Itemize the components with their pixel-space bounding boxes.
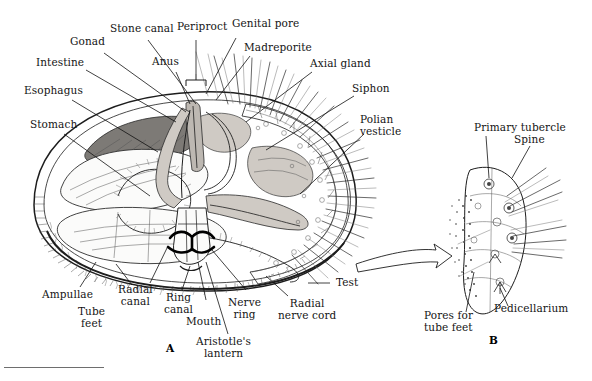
panel-b-drawing <box>449 167 566 314</box>
label-mouth: Mouth <box>186 316 221 328</box>
panel-id-a: A <box>166 342 174 354</box>
label-tube-feet: Tube feet <box>78 306 105 329</box>
panel-id-b: B <box>489 334 498 346</box>
label-polian-vesticle: Polian vesticle <box>360 114 401 137</box>
label-radial-nerve-cord: Radial nerve cord <box>278 298 336 321</box>
stomach-shape <box>61 149 208 211</box>
label-radial-canal: Radial canal <box>118 284 153 307</box>
label-aristotles-lantern: Aristotle's lantern <box>196 336 251 359</box>
figure-canvas: Gonad Stone canal Periproct Genital pore… <box>0 0 592 381</box>
periproct-bracket <box>186 74 206 86</box>
pore-stipple <box>449 195 477 297</box>
label-pedicellarium: Pedicellarium <box>494 303 568 315</box>
label-intestine: Intestine <box>36 57 84 69</box>
label-nerve-ring: Nerve ring <box>228 297 261 320</box>
label-siphon: Siphon <box>352 83 390 95</box>
label-axial-gland: Axial gland <box>310 58 371 70</box>
label-test: Test <box>336 277 358 289</box>
footnote-rule <box>4 367 104 368</box>
label-pores-tube-feet: Pores for tube feet <box>424 310 473 333</box>
label-gonad: Gonad <box>70 36 105 48</box>
label-stone-canal: Stone canal <box>110 23 174 35</box>
label-periproct: Periproct <box>177 21 227 33</box>
label-primary-tubercle: Primary tubercle <box>474 122 566 134</box>
label-esophagus: Esophagus <box>24 85 83 97</box>
label-spine: Spine <box>514 134 545 146</box>
label-anus: Anus <box>152 56 179 68</box>
label-madreporite: Madreporite <box>244 42 312 54</box>
label-ampullae: Ampullae <box>42 289 93 301</box>
panel-connector-arrow <box>356 244 452 272</box>
label-ring-canal: Ring canal <box>164 292 193 315</box>
label-genital-pore: Genital pore <box>232 18 299 30</box>
panel-a-drawing <box>34 52 376 295</box>
primary-tubercles <box>471 179 517 286</box>
label-stomach: Stomach <box>30 119 77 131</box>
